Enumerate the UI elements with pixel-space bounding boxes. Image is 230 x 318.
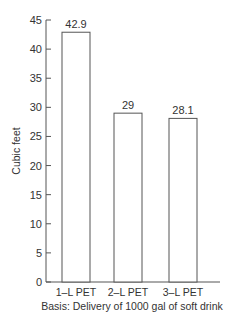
- category-label: 3–L PET: [163, 286, 204, 298]
- y-axis-label: Cubic feet: [10, 127, 22, 174]
- category-label: 1–L PET: [56, 286, 97, 298]
- bar: [169, 118, 197, 282]
- y-tick-label: 40: [30, 43, 42, 55]
- bar-chart: 051015202530354045 42.91–L PET292–L PET2…: [0, 0, 230, 318]
- y-tick-label: 15: [30, 189, 42, 201]
- bar-value-label: 29: [122, 99, 134, 111]
- y-tick-label: 10: [30, 218, 42, 230]
- y-tick-label: 30: [30, 101, 42, 113]
- y-tick-label: 5: [36, 247, 42, 259]
- y-tick-label: 45: [30, 14, 42, 26]
- bar: [62, 32, 90, 282]
- y-tick-label: 20: [30, 160, 42, 172]
- y-tick-label: 25: [30, 130, 42, 142]
- bars: 42.91–L PET292–L PET28.13–L PET: [56, 18, 204, 298]
- category-label: 2–L PET: [108, 286, 149, 298]
- bar: [114, 113, 142, 282]
- y-ticks: 051015202530354045: [30, 14, 51, 288]
- y-tick-label: 35: [30, 72, 42, 84]
- bar-value-label: 42.9: [65, 18, 86, 30]
- bar-value-label: 28.1: [172, 104, 193, 116]
- x-axis-label: Basis: Delivery of 1000 gal of soft drin…: [41, 300, 223, 312]
- y-tick-label: 0: [36, 276, 42, 288]
